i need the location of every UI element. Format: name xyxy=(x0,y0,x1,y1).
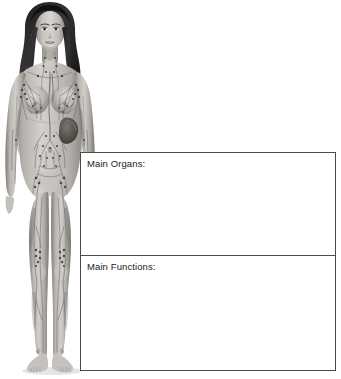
main-organs-answer-box[interactable]: Main Organs: xyxy=(80,152,336,256)
main-organs-label: Main Organs: xyxy=(87,158,145,170)
main-organs-writing-area[interactable] xyxy=(87,173,331,251)
worksheet-page: Main Organs: Main Functions: xyxy=(0,0,341,379)
main-functions-writing-area[interactable] xyxy=(87,276,331,366)
main-functions-answer-box[interactable]: Main Functions: xyxy=(80,255,336,371)
main-functions-label: Main Functions: xyxy=(87,261,156,273)
